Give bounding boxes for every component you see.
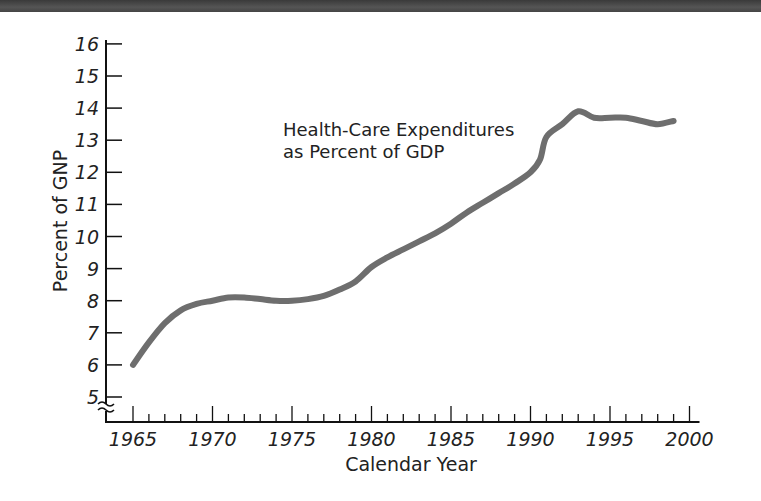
x-tick-label: 1995	[586, 428, 634, 450]
x-tick-label: 1965	[109, 428, 157, 450]
y-tick-label: 12	[75, 161, 99, 183]
y-tick-label: 14	[75, 97, 99, 119]
x-axis: 19651970197519801985199019952000	[105, 406, 714, 450]
y-tick-label: 5	[87, 386, 99, 408]
line-chart: 5678910111213141516 19651970197519801985…	[0, 0, 761, 501]
y-tick-label: 10	[75, 226, 99, 248]
y-axis: 5678910111213141516	[75, 33, 122, 422]
x-tick-label: 1975	[268, 428, 316, 450]
x-tick-label: 2000	[665, 428, 713, 450]
y-tick-label: 6	[87, 354, 99, 376]
y-tick-label: 16	[75, 33, 99, 55]
y-tick-label: 9	[87, 258, 99, 280]
x-tick-label: 1970	[188, 428, 236, 450]
annotation-line-2: as Percent of GDP	[283, 141, 444, 162]
x-axis-title: Calendar Year	[345, 453, 477, 475]
y-tick-label: 15	[75, 65, 99, 87]
x-tick-label: 1985	[427, 428, 475, 450]
x-tick-label: 1980	[347, 428, 395, 450]
annotation-line-1: Health-Care Expenditures	[283, 119, 514, 140]
axis-break-icon	[98, 402, 114, 412]
y-axis-title: Percent of GNP	[49, 150, 71, 292]
y-tick-label: 8	[87, 290, 99, 312]
y-tick-label: 7	[87, 322, 99, 344]
y-tick-label: 13	[75, 129, 99, 151]
x-tick-label: 1990	[506, 428, 554, 450]
y-tick-label: 11	[75, 193, 99, 215]
